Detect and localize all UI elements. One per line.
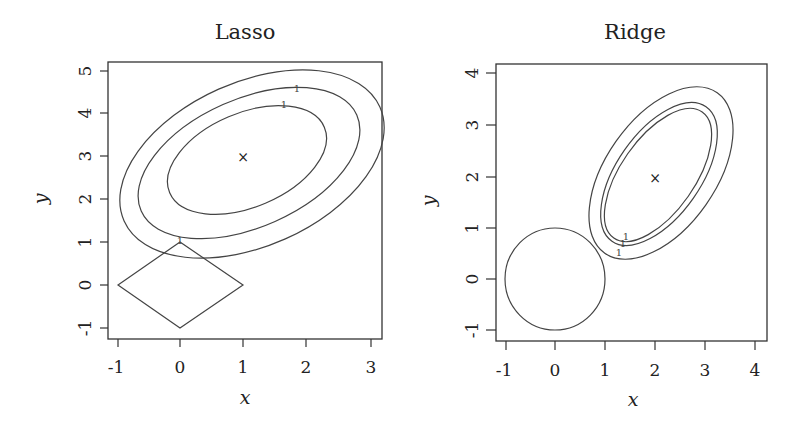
lasso-contour-label: 1 [294, 83, 300, 94]
ridge-ytick: 3 [462, 120, 482, 131]
lasso-contours [91, 32, 413, 296]
ridge-plot-frame [496, 64, 767, 341]
lasso-y-tick-labels: 5 4 3 2 1 0 -1 [75, 66, 95, 337]
ridge-y-label: y [417, 195, 439, 207]
ridge-x-axis [506, 341, 755, 350]
lasso-contour-middle [115, 57, 383, 270]
lasso-plot-frame [108, 62, 382, 339]
lasso-panel: Lasso 5 4 3 2 1 0 -1 y [29, 20, 413, 408]
ridge-panel: Ridge 4 3 2 1 0 -1 y [417, 20, 767, 410]
lasso-contour-label: 1 [177, 235, 183, 246]
lasso-ytick: 5 [75, 66, 95, 77]
lasso-y-label: y [29, 193, 51, 205]
lasso-contour-outer [91, 32, 413, 296]
ridge-xtick: 2 [650, 360, 661, 380]
lasso-center-marker: × [237, 149, 249, 165]
lasso-xtick: 1 [238, 357, 249, 377]
ridge-ytick: 4 [462, 68, 482, 79]
ridge-ytick: 0 [462, 274, 482, 285]
ridge-contours [560, 61, 763, 285]
lasso-xtick: 0 [175, 357, 186, 377]
ridge-xtick: 3 [700, 360, 711, 380]
ridge-xtick: 0 [550, 360, 561, 380]
lasso-xtick: -1 [108, 357, 125, 377]
ridge-y-axis [486, 73, 496, 330]
lasso-ytick: 2 [75, 194, 95, 205]
lasso-ytick: 3 [75, 151, 95, 162]
lasso-ytick: 0 [75, 280, 95, 291]
lasso-ytick: -1 [75, 320, 95, 337]
lasso-x-tick-labels: -1 0 1 2 3 [108, 357, 377, 377]
lasso-xtick: 2 [301, 357, 312, 377]
ridge-y-tick-labels: 4 3 2 1 0 -1 [462, 68, 482, 339]
lasso-x-label: x [240, 386, 251, 408]
ridge-contour-outer [560, 61, 763, 285]
ridge-xtick: 1 [600, 360, 611, 380]
ridge-ytick: 2 [462, 172, 482, 183]
lasso-ytick: 1 [75, 237, 95, 248]
lasso-x-axis [118, 339, 371, 347]
ridge-ytick: -1 [462, 322, 482, 339]
lasso-xtick: 3 [366, 357, 377, 377]
figure: Lasso 5 4 3 2 1 0 -1 y [0, 0, 797, 428]
ridge-xtick: -1 [496, 360, 513, 380]
ridge-contour-label: 1 [616, 247, 622, 258]
ridge-ytick: 1 [462, 223, 482, 234]
ridge-constraint-circle [505, 228, 605, 330]
ridge-center-marker: × [649, 170, 661, 186]
lasso-ytick: 4 [75, 108, 95, 119]
ridge-x-tick-labels: -1 0 1 2 3 4 [496, 360, 761, 380]
ridge-x-label: x [628, 388, 639, 410]
lasso-contour-label: 1 [281, 99, 287, 110]
ridge-title: Ridge [604, 20, 666, 44]
lasso-title: Lasso [215, 20, 276, 44]
lasso-y-axis [100, 71, 108, 328]
ridge-xtick: 4 [750, 360, 761, 380]
lasso-constraint-diamond [118, 242, 243, 328]
